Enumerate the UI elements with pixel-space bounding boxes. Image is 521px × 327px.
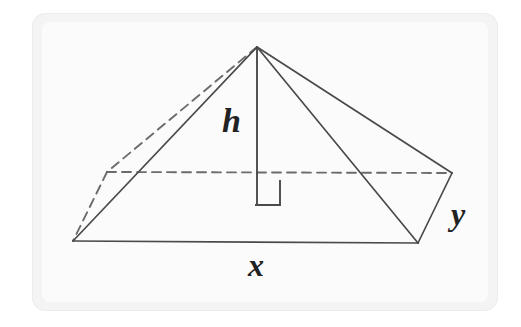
edge-apex-to-front-left (73, 47, 257, 241)
edge-base-front (73, 241, 418, 243)
base-width-label: y (451, 198, 465, 230)
figure-screenshot: h x y (0, 0, 521, 327)
edge-apex-to-back-right (257, 47, 452, 173)
edge-apex-to-front-right (257, 47, 418, 243)
base-length-label: x (248, 249, 264, 281)
visible-edges-group (73, 47, 452, 243)
hidden-edges-group (73, 47, 452, 241)
edge-base-left-hidden (73, 172, 107, 241)
right-angle-marker (256, 181, 280, 205)
edge-base-back-hidden (107, 172, 452, 173)
edge-base-right (418, 173, 452, 243)
height-label: h (222, 104, 241, 138)
